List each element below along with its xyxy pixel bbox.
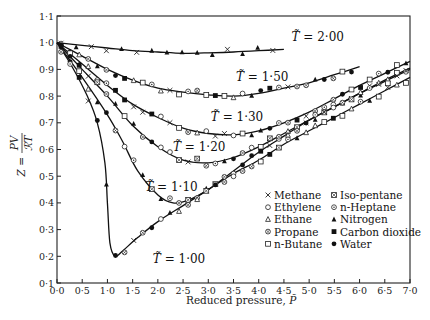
svg-text:ℛT: ℛT xyxy=(22,135,34,151)
isotherm-line xyxy=(57,43,360,96)
x-tick-label: 5·5 xyxy=(327,285,342,296)
x-tick-label: 0·0 xyxy=(49,285,64,296)
svg-text:Z =: Z = xyxy=(15,157,27,177)
legend-entry: Ethylene xyxy=(274,201,321,213)
legend-entry: Nitrogen xyxy=(340,213,388,225)
y-tick-label: 0·7 xyxy=(39,117,54,128)
legend-entry: Ethane xyxy=(274,213,312,225)
y-tick-label: 0·4 xyxy=(39,197,54,208)
legend-entry: n-Heptane xyxy=(340,201,396,213)
y-tick-label: 0·2 xyxy=(39,251,54,262)
legend-entry: Carbon dioxide xyxy=(340,226,421,238)
curve-label: T̃ = 1·30 xyxy=(211,109,263,124)
legend: MethaneEthyleneEthanePropanen-ButaneIso-… xyxy=(266,189,421,250)
curve-label: T̃ = 1·00 xyxy=(153,251,205,266)
y-tick-label: 0·6 xyxy=(39,144,54,155)
x-tick-label: 0·5 xyxy=(75,285,90,296)
curve-label: T̃ = 1·20 xyxy=(173,139,225,154)
legend-entry: n-Butane xyxy=(274,238,322,250)
x-tick-label: 1·5 xyxy=(125,285,140,296)
x-tick-label: 1·0 xyxy=(100,285,115,296)
x-tick-label: 5·0 xyxy=(302,285,317,296)
x-tick-label: 6·5 xyxy=(377,285,392,296)
isotherm-line xyxy=(57,43,284,54)
compressibility-chart: 0·10·20·30·40·50·60·70·80·91·01·1 0·00·5… xyxy=(0,0,430,320)
y-tick-label: 0·3 xyxy=(39,224,54,235)
y-tick-label: 1·0 xyxy=(39,37,54,48)
y-axis-ticks: 0·10·20·30·40·50·60·70·80·91·01·1 xyxy=(39,11,61,289)
curve-label: T̃ = 2·00 xyxy=(291,29,343,44)
legend-entry: Propane xyxy=(274,226,318,238)
svg-text:PV: PV xyxy=(8,134,20,151)
y-tick-label: 0·9 xyxy=(39,64,54,75)
y-tick-label: 0·8 xyxy=(39,91,54,102)
isotherm-line xyxy=(57,43,410,163)
x-tick-label: 6·0 xyxy=(352,285,367,296)
y-tick-label: 0·5 xyxy=(39,171,54,182)
legend-entry: Methane xyxy=(274,189,321,201)
x-axis-title: Reduced pressure, P̃ xyxy=(186,294,297,306)
legend-entry: Water xyxy=(340,238,373,250)
curve-label: T̃ = 1·10 xyxy=(145,179,197,194)
y-tick-label: 1·1 xyxy=(39,11,54,22)
curve-label: T̃ = 1·50 xyxy=(236,69,288,84)
y-axis-title: Z = PV ℛT xyxy=(8,133,34,177)
legend-entry: Iso-pentane xyxy=(340,189,403,201)
x-tick-label: 2·0 xyxy=(150,285,165,296)
x-tick-label: 7·0 xyxy=(402,285,417,296)
